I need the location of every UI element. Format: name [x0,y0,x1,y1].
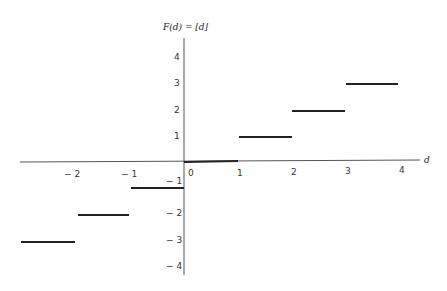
floor-function-chart: F(d) = ⌊d⌋ d − 2 − 1 0 1 2 3 4 4 3 2 1 −… [0,0,447,291]
step-segments [21,84,398,242]
origin-label: 0 [188,168,194,178]
y-axis-title: F(d) = ⌊d⌋ [162,22,209,32]
x-tick-label: 3 [345,166,351,176]
y-tick-label: − 3 [166,235,182,245]
y-tick-label: 4 [174,52,180,62]
step-segment [184,161,238,162]
y-tick-label: 1 [174,131,180,141]
x-tick-label: 2 [291,167,297,177]
x-tick-label: 4 [399,165,405,175]
y-tick-label: − 1 [166,176,182,186]
y-tick-label: 2 [174,105,180,115]
y-tick-label: − 2 [166,208,182,218]
x-axis-title: d [424,155,430,165]
x-tick-label: 1 [237,168,243,178]
x-tick-label: − 2 [64,169,80,179]
y-tick-label: 3 [174,78,180,88]
y-tick-label: − 4 [166,261,182,271]
x-tick-label: − 1 [121,169,137,179]
